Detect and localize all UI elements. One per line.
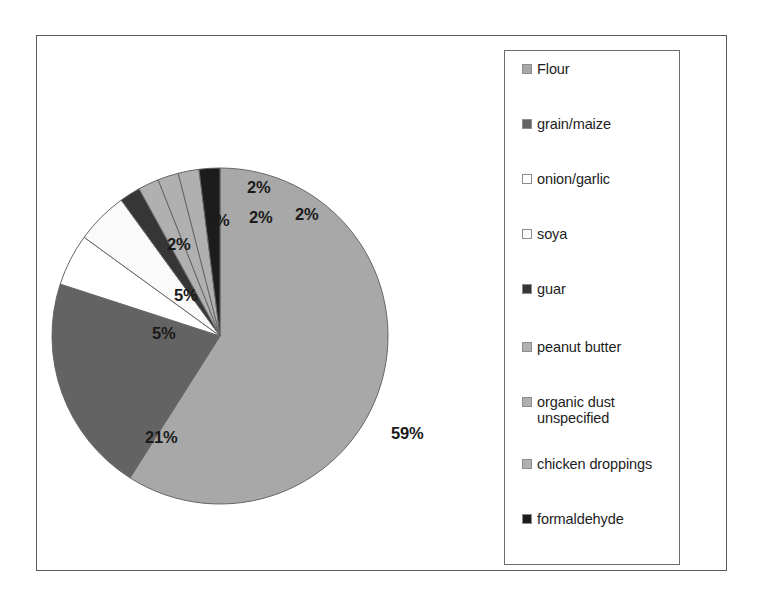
pie-label-formaldehyde: 2% [295, 205, 318, 224]
legend-swatch-icon [522, 397, 532, 407]
pie-label-flour: 59% [391, 424, 423, 443]
legend-item[interactable]: formaldehyde [522, 511, 624, 527]
legend-swatch-icon [522, 119, 532, 129]
chart-frame: 2% 2% 2% 2% 2% 5% 5% 21% 59% Flourgrain/… [36, 35, 727, 571]
pie-label-soya: 5% [174, 286, 197, 305]
legend-item-label: guar [537, 281, 566, 297]
legend-swatch-icon [522, 342, 532, 352]
legend-swatch-icon [522, 64, 532, 74]
legend-swatch-icon [522, 514, 532, 524]
legend-swatch-icon [522, 284, 532, 294]
legend-item-label: grain/maize [537, 116, 611, 132]
legend-item-label: onion/garlic [537, 171, 610, 187]
legend-item[interactable]: peanut butter [522, 339, 621, 355]
legend-item[interactable]: organic dust unspecified [522, 394, 615, 426]
legend-item-label: peanut butter [537, 339, 621, 355]
pie-label-guar: 2% [167, 235, 190, 254]
legend-item[interactable]: Flour [522, 61, 570, 77]
pie-label-onion-garlic: 5% [152, 324, 175, 343]
pie-label-organic-dust: 2% [247, 178, 270, 197]
legend-item[interactable]: onion/garlic [522, 171, 610, 187]
legend-item[interactable]: grain/maize [522, 116, 611, 132]
pie-label-peanut-butter: 2% [206, 211, 229, 230]
legend-item[interactable]: soya [522, 226, 567, 242]
pie-chart-plot-area: 2% 2% 2% 2% 2% 5% 5% 21% 59% [37, 36, 507, 572]
chart-legend: Flourgrain/maizeonion/garlicsoyaguarpean… [504, 50, 680, 565]
legend-item-label: soya [537, 226, 567, 242]
legend-swatch-icon [522, 174, 532, 184]
legend-item-label: formaldehyde [537, 511, 624, 527]
legend-item-label: Flour [537, 61, 570, 77]
legend-item[interactable]: guar [522, 281, 566, 297]
legend-item-label: chicken droppings [537, 456, 652, 472]
pie-label-grain-maize: 21% [145, 428, 177, 447]
legend-item-label: organic dust unspecified [537, 394, 615, 426]
legend-swatch-icon [522, 459, 532, 469]
legend-item[interactable]: chicken droppings [522, 456, 652, 472]
legend-swatch-icon [522, 229, 532, 239]
pie-label-chicken-droppings: 2% [249, 208, 272, 227]
